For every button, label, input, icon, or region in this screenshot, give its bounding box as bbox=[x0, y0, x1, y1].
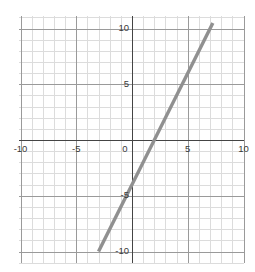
y-axis-tick-label: -5 bbox=[121, 189, 129, 200]
y-axis-tick-label: 5 bbox=[124, 78, 129, 89]
y-axis-tick-label: -10 bbox=[115, 245, 129, 256]
coordinate-graph: -10-50510 105-5-10 bbox=[0, 0, 255, 272]
x-axis-tick-label: -10 bbox=[14, 143, 28, 154]
x-axis-tick-label: 5 bbox=[185, 143, 190, 154]
x-axis-tick-label: 10 bbox=[238, 143, 249, 154]
x-axis-tick-label: -5 bbox=[72, 143, 80, 154]
y-axis-tick-label: 10 bbox=[118, 22, 129, 33]
graph-canvas: -10-50510 105-5-10 bbox=[0, 0, 255, 272]
x-axis-tick-label: 0 bbox=[122, 143, 127, 154]
